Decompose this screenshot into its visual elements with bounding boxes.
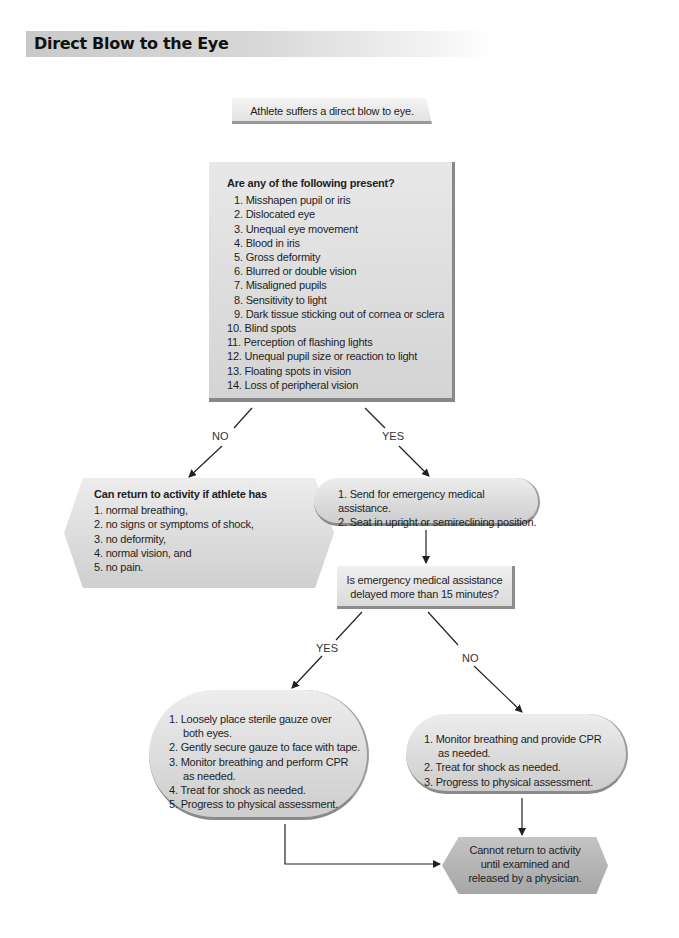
ems-item: 2. Seat in upright or semireclining posi… [338,515,538,529]
symptom-item: 3. Unequal eye movement [227,222,440,236]
symptom-item: 5. Gross deformity [227,250,440,264]
care-item-cont: as needed. [169,769,367,783]
end-node: Cannot return to activity until examined… [442,837,608,894]
return-to-activity-node: Can return to activity if athlete has 1.… [64,478,334,588]
care-item-cont: both eyes. [169,726,367,740]
return-item: 2. no signs or symptoms of shock, [94,517,334,531]
arrow-delay-no-upper [428,612,458,645]
arrow-delay-yes-upper [336,612,362,640]
delay-line: Is emergency medical assistance [337,573,512,587]
start-node: Athlete suffers a direct blow to eye. [232,98,432,124]
arrow-q-no [189,446,222,477]
symptom-item: 12. Unequal pupil size or reaction to li… [227,349,440,363]
care-item-cont: as needed. [424,746,626,760]
symptom-item: 2. Dislocated eye [227,207,440,221]
care-item: 2. Gently secure gauze to face with tape… [169,740,367,754]
symptom-item: 9. Dark tissue sticking out of cornea or… [227,307,440,321]
care-item: 2. Treat for shock as needed. [424,760,626,774]
return-item: 5. no pain. [94,560,334,574]
delayed-no-node: 1. Monitor breathing and provide CPR as … [406,714,628,794]
arrow-q-yes [399,446,429,476]
arrow-q-no-upper [234,408,252,428]
start-text: Athlete suffers a direct blow to eye. [250,105,414,117]
care-item: 1. Monitor breathing and provide CPR [424,732,626,746]
question-heading: Are any of the following present? [227,176,440,190]
symptom-item: 1. Misshapen pupil or iris [227,193,440,207]
end-line: Cannot return to activity [442,843,608,857]
arrow-q-yes-upper [365,408,385,428]
end-line: released by a physician. [442,871,608,885]
edge-label-delay-yes: YES [316,642,338,654]
care-item: 5. Progress to physical assessment. [169,797,367,811]
symptom-item: 6. Blurred or double vision [227,264,440,278]
symptom-item: 7. Misaligned pupils [227,278,440,292]
ems-node: 1. Send for emergency medical assistance… [314,478,540,526]
return-item: 4. normal vision, and [94,546,334,560]
symptom-item: 13. Floating spots in vision [227,364,440,378]
return-item: 1. normal breathing, [94,503,334,517]
care-item: 1. Loosely place sterile gauze over [169,712,367,726]
symptom-item: 14. Loss of peripheral vision [227,378,440,392]
edge-label-yes: YES [382,430,404,442]
arrow-delay-no [474,666,522,712]
care-item: 4. Treat for shock as needed. [169,783,367,797]
symptom-item: 8. Sensitivity to light [227,293,440,307]
assessment-question-node: Are any of the following present? 1. Mis… [209,162,455,402]
arrow-yes-end [285,824,440,864]
symptom-list: 1. Misshapen pupil or iris 2. Dislocated… [227,193,440,392]
end-line: until examined and [442,857,608,871]
symptom-item: 10. Blind spots [227,321,440,335]
delay-question-node: Is emergency medical assistance delayed … [337,566,515,609]
symptom-item: 4. Blood in iris [227,236,440,250]
return-heading: Can return to activity if athlete has [94,487,334,501]
delayed-yes-node: 1. Loosely place sterile gauze over both… [149,690,369,820]
edge-label-delay-no: NO [462,652,479,664]
return-item: 3. no deformity, [94,532,334,546]
arrow-delay-yes [292,656,322,688]
edge-label-no: NO [212,430,229,442]
care-item: 3. Monitor breathing and perform CPR [169,755,367,769]
symptom-item: 11. Perception of flashing lights [227,335,440,349]
delay-line: delayed more than 15 minutes? [337,587,512,601]
care-item: 3. Progress to physical assessment. [424,775,626,789]
ems-item: 1. Send for emergency medical assistance… [338,487,538,515]
